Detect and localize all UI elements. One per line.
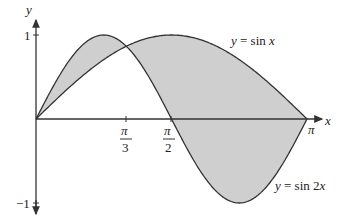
y-axis-label: y [24, 2, 32, 17]
x-tick-pi3-num: π [121, 123, 128, 138]
x-tick-pi: π [308, 122, 315, 137]
chart: y 1 −1 x π π 3 π 2 y = sin x y = sin 2x [0, 0, 346, 222]
y-tick-1: 1 [24, 28, 31, 43]
label-sin-x: y = sin x [229, 33, 275, 48]
y-tick-neg1: −1 [16, 196, 30, 211]
x-axis-label: x [324, 113, 331, 128]
label-sin-2x: y = sin 2x [273, 178, 326, 193]
x-tick-pi2-den: 2 [165, 140, 172, 155]
x-tick-pi3-den: 3 [122, 140, 129, 155]
x-tick-pi2-num: π [164, 123, 171, 138]
